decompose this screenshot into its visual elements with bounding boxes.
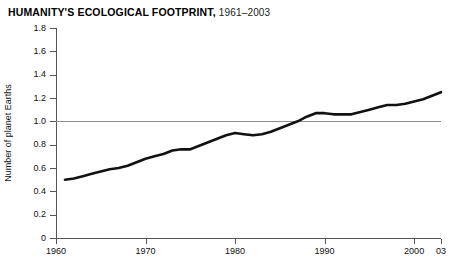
x-axis-tick	[56, 239, 57, 244]
y-axis-tick-label: 0	[0, 234, 46, 243]
y-axis-title: Number of planet Earths	[3, 73, 13, 193]
x-axis-tick-label: 03	[421, 246, 451, 256]
title-main: HUMANITY'S ECOLOGICAL FOOTPRINT,	[8, 6, 216, 18]
x-axis-line	[56, 238, 441, 239]
y-axis-tick	[50, 168, 56, 169]
y-axis-tick	[50, 191, 56, 192]
y-axis-tick-label: 0.2	[0, 210, 46, 219]
x-axis-tick	[146, 239, 147, 244]
y-axis-tick-label: 1.6	[0, 47, 46, 56]
x-axis-tick	[235, 239, 236, 244]
x-axis-tick-label: 1980	[215, 246, 255, 256]
reference-line-one-earth	[56, 121, 441, 122]
y-axis-tick	[50, 75, 56, 76]
y-axis-tick	[50, 51, 56, 52]
y-axis-tick	[50, 28, 56, 29]
x-axis-tick	[441, 239, 442, 244]
page-title: HUMANITY'S ECOLOGICAL FOOTPRINT, 1961–20…	[8, 6, 270, 19]
x-axis-tick-label: 1960	[36, 246, 76, 256]
x-axis-tick	[414, 239, 415, 244]
footprint-line	[65, 92, 441, 180]
x-axis-tick-label: 1990	[305, 246, 345, 256]
y-axis-tick	[50, 98, 56, 99]
y-axis-tick	[50, 145, 56, 146]
x-axis-tick	[325, 239, 326, 244]
title-date-range: 1961–2003	[219, 7, 270, 18]
y-axis-tick-label: 1.8	[0, 24, 46, 33]
y-axis-line	[56, 28, 57, 239]
y-axis-tick	[50, 215, 56, 216]
x-axis-tick-label: 1970	[126, 246, 166, 256]
